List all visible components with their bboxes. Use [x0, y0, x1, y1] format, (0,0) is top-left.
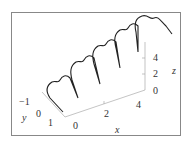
y-tick-neg1: −1 — [19, 96, 30, 107]
x-tick-0: 0 — [73, 120, 78, 131]
z-tick-2: 2 — [153, 68, 158, 79]
spiral-curve — [47, 16, 172, 112]
y-axis-line — [42, 92, 65, 117]
plot-3d: 0 2 4 x −1 0 1 y 0 2 4 z — [0, 0, 192, 148]
x-tick-4: 4 — [136, 99, 141, 110]
y-tick-0: 0 — [36, 108, 41, 119]
y-axis-label: y — [21, 112, 27, 123]
x-axis-label: x — [114, 124, 120, 135]
x-tick-2: 2 — [104, 108, 109, 119]
z-tick-0: 0 — [153, 85, 158, 96]
y-tick-1: 1 — [48, 117, 53, 128]
z-tick-4: 4 — [153, 52, 158, 63]
z-axis-label: z — [171, 65, 176, 76]
